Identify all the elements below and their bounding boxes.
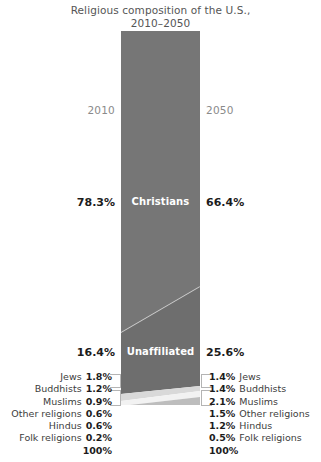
unaffiliated-pct-2010: 16.4% xyxy=(0,346,115,359)
minor-label: Hindus xyxy=(239,420,272,431)
unaffiliated-label: Unaffiliated xyxy=(121,346,200,357)
minor-value: 0.9% xyxy=(86,396,112,407)
total-row-2050: 100% xyxy=(209,445,321,457)
total-value: 100% xyxy=(209,445,238,456)
list-item: 2.1%Muslims xyxy=(209,396,321,408)
minor-label: Buddhists xyxy=(35,383,82,394)
list-item: 1.4%Buddhists xyxy=(209,383,321,395)
list-item: 1.4%Jews xyxy=(209,371,321,383)
list-item: 1.2%Hindus xyxy=(209,420,321,432)
list-item: 0.5%Folk religions xyxy=(209,432,321,444)
minor-value: 1.8% xyxy=(86,371,112,382)
christians-label: Christians xyxy=(121,196,200,207)
minor-label: Other religions xyxy=(239,408,309,419)
list-item: 1.5%Other religions xyxy=(209,408,321,420)
band-christians xyxy=(121,31,200,333)
minor-value: 1.2% xyxy=(209,420,235,431)
list-item: Buddhists1.2% xyxy=(0,383,112,395)
total-value: 100% xyxy=(83,445,112,456)
total-row-2010: 100% xyxy=(0,445,112,457)
minor-label: Hindus xyxy=(49,420,82,431)
minor-value: 1.4% xyxy=(209,383,235,394)
unaffiliated-pct-2050: 25.6% xyxy=(206,346,316,359)
minor-value: 1.4% xyxy=(209,371,235,382)
list-item: Hindus0.6% xyxy=(0,420,112,432)
year-label-2050: 2050 xyxy=(206,104,316,116)
minor-label: Buddhists xyxy=(239,383,286,394)
list-item: Other religions0.6% xyxy=(0,408,112,420)
minor-religions-list-2050: 1.4%Jews 1.4%Buddhists 2.1%Muslims 1.5%O… xyxy=(209,371,321,457)
minor-value: 0.6% xyxy=(86,420,112,431)
list-item: Jews1.8% xyxy=(0,371,112,383)
minor-value: 0.2% xyxy=(86,432,112,443)
minor-label: Jews xyxy=(60,371,81,382)
minor-value: 0.6% xyxy=(86,408,112,419)
minor-label: Folk religions xyxy=(19,432,81,443)
minor-value: 1.5% xyxy=(209,408,235,419)
minor-label: Muslims xyxy=(239,396,278,407)
christians-pct-2050: 66.4% xyxy=(206,196,316,209)
chart-area: 2010 2050 78.3% Christians 66.4% 16.4% U… xyxy=(0,0,321,462)
minor-value: 0.5% xyxy=(209,432,235,443)
minor-label: Muslims xyxy=(43,396,82,407)
minor-label: Jews xyxy=(239,371,260,382)
minor-value: 2.1% xyxy=(209,396,235,407)
minor-label: Folk religions xyxy=(239,432,301,443)
list-item: Folk religions0.2% xyxy=(0,432,112,444)
list-item: Muslims0.9% xyxy=(0,396,112,408)
year-label-2010: 2010 xyxy=(0,104,115,116)
minor-religions-list-2010: Jews1.8% Buddhists1.2% Muslims0.9% Other… xyxy=(0,371,112,457)
christians-pct-2010: 78.3% xyxy=(0,196,115,209)
minor-value: 1.2% xyxy=(86,383,112,394)
minor-label: Other religions xyxy=(11,408,81,419)
